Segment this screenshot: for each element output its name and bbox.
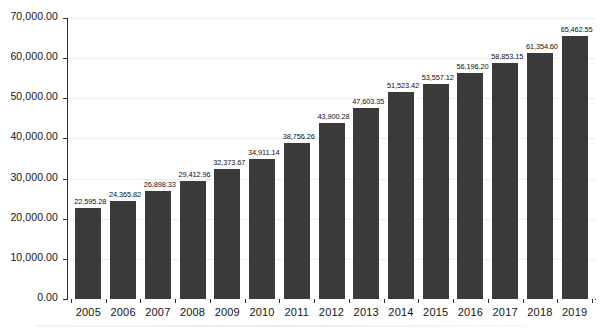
x-tick-mark [453, 299, 454, 303]
bar-value-label: 56,196.20 [456, 63, 488, 71]
bar-slot: 29,412.96 [175, 18, 210, 299]
bar: 51,523.42 [388, 92, 414, 299]
bar-value-label: 61,354.60 [526, 43, 558, 51]
bar-slot: 32,373.67 [210, 18, 245, 299]
y-tick-label: 20,000.00 [10, 212, 58, 223]
bar-slot: 22,595.28 [71, 18, 106, 299]
bar-slot: 58,853.15 [488, 18, 523, 299]
x-tick-mark [106, 299, 107, 303]
bar-slot: 51,523.42 [384, 18, 419, 299]
y-tick-label: 50,000.00 [10, 91, 58, 102]
bar: 38,756.26 [284, 143, 310, 299]
x-tick-label: 2019 [557, 305, 592, 323]
bar-series: 22,595.2824,365.8226,898.3329,412.9632,3… [68, 18, 595, 299]
x-tick-label: 2005 [71, 305, 106, 323]
bar-slot: 34,911.14 [245, 18, 280, 299]
x-axis-labels: 2005200620072008200920102011201220132014… [68, 305, 595, 323]
bar-value-label: 47,603.35 [352, 98, 384, 106]
bar-slot: 53,557.12 [418, 18, 453, 299]
x-tick-mark [140, 299, 141, 303]
bar: 56,196.20 [457, 73, 483, 299]
x-tick-label: 2014 [384, 305, 419, 323]
bar-value-label: 26,898.33 [144, 181, 176, 189]
x-tick-label: 2007 [140, 305, 175, 323]
y-tick-label: 10,000.00 [10, 252, 58, 263]
x-tick-mark [210, 299, 211, 303]
x-tick-mark [592, 299, 593, 303]
bar-value-label: 29,412.96 [179, 171, 211, 179]
x-tick-label: 2008 [175, 305, 210, 323]
bar-slot: 24,365.82 [106, 18, 141, 299]
bar-value-label: 65,462.55 [561, 26, 593, 34]
y-tick-label: 70,000.00 [10, 11, 58, 22]
x-tick-mark [523, 299, 524, 303]
bar: 53,557.12 [423, 84, 449, 299]
x-tick-mark [384, 299, 385, 303]
y-tick-label: 30,000.00 [10, 172, 58, 183]
x-tick-mark [557, 299, 558, 303]
x-tick-label: 2011 [279, 305, 314, 323]
bar-slot: 43,900.28 [314, 18, 349, 299]
bar-value-label: 38,756.26 [283, 133, 315, 141]
x-tick-label: 2013 [349, 305, 384, 323]
bar: 58,853.15 [492, 63, 518, 299]
x-tick-label: 2010 [245, 305, 280, 323]
bar-value-label: 51,523.42 [387, 82, 419, 90]
bar-chart: 0.0010,000.0020,000.0030,000.0040,000.00… [0, 0, 603, 330]
bar-slot: 47,603.35 [349, 18, 384, 299]
bar: 34,911.14 [249, 159, 275, 299]
x-tick-label: 2009 [210, 305, 245, 323]
bar: 65,462.55 [562, 36, 588, 299]
bar-slot: 65,462.55 [557, 18, 592, 299]
bar-slot: 26,898.33 [140, 18, 175, 299]
bar-slot: 56,196.20 [453, 18, 488, 299]
y-gridline: 0.00 [68, 299, 595, 300]
x-tick-label: 2006 [106, 305, 141, 323]
bar-value-label: 22,595.28 [74, 198, 106, 206]
y-tick-label: 60,000.00 [10, 51, 58, 62]
x-tick-mark [349, 299, 350, 303]
bar: 47,603.35 [353, 108, 379, 299]
bar-value-label: 24,365.82 [109, 191, 141, 199]
x-tick-mark [279, 299, 280, 303]
bar: 29,412.96 [180, 181, 206, 299]
plot-area: 0.0010,000.0020,000.0030,000.0040,000.00… [68, 18, 595, 299]
scan-artifact [36, 325, 526, 327]
bar-slot: 61,354.60 [523, 18, 558, 299]
bar-slot: 38,756.26 [279, 18, 314, 299]
bar-value-label: 53,557.12 [422, 74, 454, 82]
y-tick-mark [63, 299, 68, 300]
x-tick-mark [314, 299, 315, 303]
x-tick-mark [245, 299, 246, 303]
bar-value-label: 58,853.15 [491, 53, 523, 61]
x-tick-label: 2018 [523, 305, 558, 323]
x-tick-mark [488, 299, 489, 303]
y-tick-label: 0.00 [37, 292, 58, 303]
bar: 24,365.82 [110, 201, 136, 299]
x-tick-label: 2017 [488, 305, 523, 323]
bar: 32,373.67 [214, 169, 240, 299]
bar-value-label: 32,373.67 [213, 159, 245, 167]
bar: 61,354.60 [527, 53, 553, 299]
bar-value-label: 34,911.14 [248, 149, 279, 157]
x-tick-label: 2012 [314, 305, 349, 323]
x-tick-label: 2015 [418, 305, 453, 323]
bar: 43,900.28 [319, 123, 345, 299]
bar-value-label: 43,900.28 [318, 113, 350, 121]
x-tick-mark [175, 299, 176, 303]
x-tick-mark [418, 299, 419, 303]
x-tick-label: 2016 [453, 305, 488, 323]
bar: 26,898.33 [145, 191, 171, 299]
x-tick-mark [71, 299, 72, 303]
y-tick-label: 40,000.00 [10, 131, 58, 142]
bar: 22,595.28 [75, 208, 101, 299]
